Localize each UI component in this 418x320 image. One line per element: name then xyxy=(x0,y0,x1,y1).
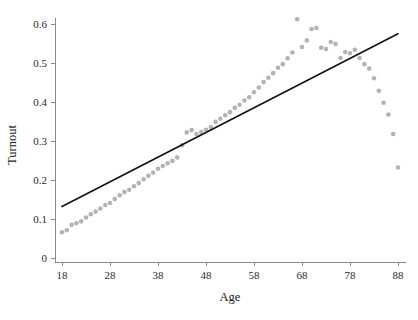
data-point xyxy=(189,128,194,133)
data-point xyxy=(69,223,74,228)
data-point xyxy=(314,26,319,31)
data-point xyxy=(108,201,113,206)
data-point xyxy=(60,230,65,235)
data-point xyxy=(348,51,353,56)
data-point xyxy=(74,221,79,226)
data-point xyxy=(89,212,94,217)
y-tick-label: 0 xyxy=(42,252,48,264)
data-point xyxy=(213,120,218,125)
data-point xyxy=(242,98,247,103)
x-tick-label: 48 xyxy=(201,269,213,281)
x-tick-label: 18 xyxy=(57,269,69,281)
data-point xyxy=(338,56,343,61)
y-tick-label: 0.3 xyxy=(33,135,47,147)
data-point xyxy=(377,88,382,93)
data-point xyxy=(151,170,156,175)
data-point xyxy=(185,130,190,135)
data-point xyxy=(175,155,180,160)
data-point xyxy=(170,159,175,164)
data-point xyxy=(290,50,295,55)
data-point xyxy=(156,166,161,171)
data-point xyxy=(98,206,103,211)
regression-line-group xyxy=(62,34,398,207)
data-point xyxy=(266,76,271,81)
data-point xyxy=(257,85,262,90)
y-tick-label: 0.1 xyxy=(33,213,47,225)
scatter-plot-figure: 00.10.20.30.40.50.61828384858687888AgeTu… xyxy=(0,0,418,320)
data-point xyxy=(247,95,252,100)
data-point xyxy=(261,80,266,85)
data-point xyxy=(122,190,127,195)
data-point xyxy=(165,161,170,166)
data-point xyxy=(137,181,142,186)
data-point xyxy=(357,56,362,61)
data-point xyxy=(343,50,348,55)
data-point xyxy=(117,193,122,198)
data-point xyxy=(353,47,358,52)
y-tick-label: 0.6 xyxy=(33,18,47,30)
data-point xyxy=(281,62,286,67)
data-point xyxy=(223,113,228,118)
data-point xyxy=(324,47,329,52)
data-point xyxy=(146,173,151,178)
y-tick-label: 0.4 xyxy=(33,96,47,108)
data-point xyxy=(84,215,89,220)
data-point xyxy=(132,184,137,189)
data-point xyxy=(141,177,146,182)
data-point xyxy=(194,132,199,137)
data-point xyxy=(300,45,305,50)
axes-group xyxy=(51,18,406,266)
data-point xyxy=(367,66,372,71)
data-point xyxy=(333,42,338,47)
data-point xyxy=(113,197,118,202)
data-point xyxy=(319,45,324,50)
y-tick-label: 0.5 xyxy=(33,57,47,69)
data-point xyxy=(161,164,166,169)
x-tick-label: 78 xyxy=(345,269,357,281)
regression-line xyxy=(62,34,398,207)
data-point xyxy=(65,228,70,233)
x-tick-label: 38 xyxy=(153,269,165,281)
data-point xyxy=(329,40,334,45)
data-point xyxy=(276,65,281,70)
data-point xyxy=(103,203,108,208)
data-point xyxy=(386,112,391,117)
x-tick-label: 28 xyxy=(105,269,117,281)
y-tick-label: 0.2 xyxy=(33,174,47,186)
x-axis-title-text: Age xyxy=(220,290,241,304)
x-tick-label: 68 xyxy=(297,269,309,281)
data-point xyxy=(309,27,314,32)
data-point xyxy=(127,187,132,192)
data-point xyxy=(295,17,300,22)
chart-canvas: 00.10.20.30.40.50.61828384858687888AgeTu… xyxy=(0,0,418,320)
data-point xyxy=(391,132,396,137)
data-point xyxy=(218,116,223,121)
data-point xyxy=(372,76,377,81)
data-points-group xyxy=(60,17,401,235)
x-tick-label: 88 xyxy=(393,269,405,281)
data-point xyxy=(237,102,242,107)
data-point xyxy=(362,62,367,67)
y-axis-title-text: Turnout xyxy=(5,125,19,165)
data-point xyxy=(305,38,310,43)
data-point xyxy=(93,209,98,214)
data-point xyxy=(396,165,401,170)
data-point xyxy=(233,106,238,111)
data-point xyxy=(228,110,233,115)
data-point xyxy=(79,219,84,224)
data-point xyxy=(285,56,290,61)
data-point xyxy=(252,90,257,95)
x-tick-label: 58 xyxy=(249,269,261,281)
data-point xyxy=(271,71,276,76)
data-point xyxy=(381,100,386,105)
